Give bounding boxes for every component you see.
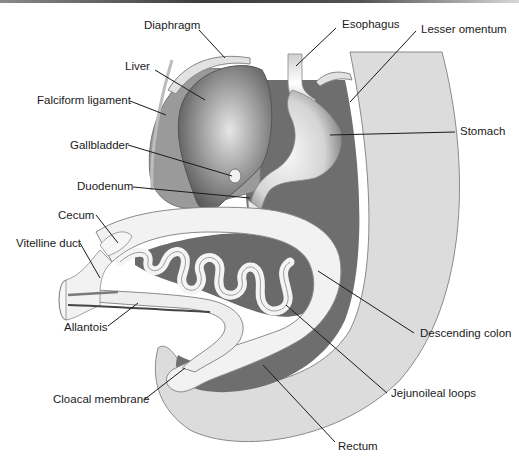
- label-cloacal-membrane: Cloacal membrane: [53, 393, 150, 405]
- label-lesser-omentum: Lesser omentum: [421, 23, 507, 35]
- label-allantois: Allantois: [64, 321, 108, 333]
- label-falciform-ligament: Falciform ligament: [37, 94, 132, 106]
- embryonic-gut-diagram: Diaphragm Esophagus Lesser omentum Liver…: [0, 0, 519, 458]
- label-jejunoileal-loops: Jejunoileal loops: [391, 387, 476, 399]
- umbilical-stalk: [66, 250, 112, 320]
- label-rectum: Rectum: [338, 440, 378, 452]
- label-descending-colon: Descending colon: [420, 327, 511, 339]
- label-diaphragm: Diaphragm: [144, 19, 200, 31]
- label-vitelline-duct: Vitelline duct: [16, 237, 82, 249]
- label-cecum: Cecum: [58, 209, 94, 221]
- label-stomach: Stomach: [460, 125, 505, 137]
- label-gallbladder: Gallbladder: [70, 139, 129, 151]
- label-duodenum: Duodenum: [77, 180, 133, 192]
- label-liver: Liver: [125, 60, 150, 72]
- label-esophagus: Esophagus: [342, 18, 400, 30]
